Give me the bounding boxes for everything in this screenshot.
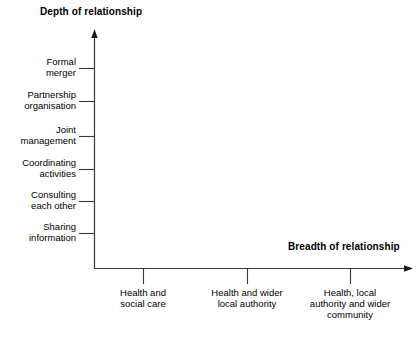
y-axis-label-line-2: organisation xyxy=(2,100,76,111)
x-axis-label-line-2: social care xyxy=(83,298,203,309)
diagram-canvas: Depth of relationship Breadth of relatio… xyxy=(0,0,418,339)
y-axis-label-partnership-organisation: Partnership organisation xyxy=(2,89,76,111)
y-axis-label-coordinating-activities: Coordinating activities xyxy=(2,157,76,179)
y-axis-label-line-1: Coordinating xyxy=(2,157,76,168)
x-axis-label-line-3: community xyxy=(290,309,410,320)
y-axis-label-formal-merger: Formal merger xyxy=(2,56,76,78)
x-axis-label-health-and-social-care: Health and social care xyxy=(83,287,203,309)
y-axis-label-line-1: Formal xyxy=(2,56,76,67)
y-axis-label-line-2: management xyxy=(2,135,76,146)
y-axis-label-line-2: activities xyxy=(2,168,76,179)
y-axis-label-line-1: Consulting xyxy=(2,189,76,200)
x-axis-label-line-1: Health and wider xyxy=(187,287,307,298)
x-axis-label-health-and-wider-local-authority: Health and wider local authority xyxy=(187,287,307,309)
y-axis-label-consulting-each-other: Consulting each other xyxy=(2,189,76,211)
y-axis-label-sharing-information: Sharing information xyxy=(2,221,76,243)
y-axis-label-line-1: Sharing xyxy=(2,221,76,232)
y-axis-label-joint-management: Joint management xyxy=(2,124,76,146)
x-axis-label-line-2: authority and wider xyxy=(290,298,410,309)
x-axis-label-line-1: Health, local xyxy=(290,287,410,298)
x-axis-label-health-local-authority-and-wider-community: Health, local authority and wider commun… xyxy=(290,287,410,320)
y-axis-arrowhead xyxy=(91,29,97,38)
x-axis-arrowhead xyxy=(404,265,413,271)
y-axis-label-line-2: merger xyxy=(2,67,76,78)
y-axis-label-line-1: Joint xyxy=(2,124,76,135)
y-axis-label-line-1: Partnership xyxy=(2,89,76,100)
x-axis-label-line-2: local authority xyxy=(187,298,307,309)
y-axis-label-line-2: each other xyxy=(2,200,76,211)
x-axis-label-line-1: Health and xyxy=(83,287,203,298)
y-axis-label-line-2: information xyxy=(2,232,76,243)
